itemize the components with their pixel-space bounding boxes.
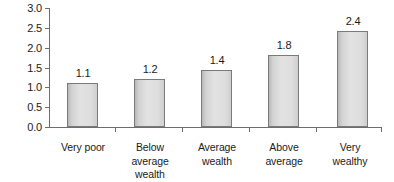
x-axis-line xyxy=(49,127,382,128)
x-axis-label-average: Average wealth xyxy=(198,141,236,168)
bar-chart: Yield (t/ha) 0.0 0.5 1.0 1.5 2.0 2.5 xyxy=(0,0,394,182)
x-axis-label-below-average: Below average wealth xyxy=(131,141,168,182)
y-tick-mark xyxy=(45,68,49,69)
y-tick-mark xyxy=(45,48,49,49)
y-tick-label: 2.0 xyxy=(27,42,42,54)
bar-value-label: 1.1 xyxy=(76,67,91,79)
y-tick-mark xyxy=(45,8,49,9)
x-tick-mark xyxy=(115,128,116,132)
bar-value-label: 2.4 xyxy=(346,15,361,27)
bar-average[interactable] xyxy=(201,70,232,127)
bar-very-poor[interactable] xyxy=(67,83,98,127)
x-axis-label-very-wealthy: Very wealthy xyxy=(333,141,368,168)
plot-area: 0.0 0.5 1.0 1.5 2.0 2.5 3.0 xyxy=(49,8,382,127)
x-axis-label-above-average: Above average xyxy=(265,141,302,168)
bar-above-average[interactable] xyxy=(268,55,299,127)
bar-very-wealthy[interactable] xyxy=(337,31,368,127)
y-axis-line xyxy=(49,8,50,128)
y-tick-mark xyxy=(45,127,49,128)
y-tick-label: 0.5 xyxy=(27,101,42,113)
y-tick-mark xyxy=(45,28,49,29)
x-tick-mark xyxy=(381,128,382,132)
x-tick-mark xyxy=(316,128,317,132)
y-tick-mark xyxy=(45,87,49,88)
y-tick-label: 1.0 xyxy=(27,81,42,93)
y-tick-mark xyxy=(45,107,49,108)
y-tick-label: 2.5 xyxy=(27,22,42,34)
bar-below-average[interactable] xyxy=(134,79,165,127)
bar-value-label: 1.8 xyxy=(277,39,292,51)
y-tick-label: 0.0 xyxy=(27,121,42,133)
y-tick-label: 3.0 xyxy=(27,2,42,14)
x-tick-mark xyxy=(182,128,183,132)
x-tick-mark xyxy=(249,128,250,132)
y-tick-label: 1.5 xyxy=(27,62,42,74)
bar-value-label: 1.2 xyxy=(143,63,158,75)
x-axis-label-very-poor: Very poor xyxy=(61,141,105,155)
bar-value-label: 1.4 xyxy=(210,54,225,66)
